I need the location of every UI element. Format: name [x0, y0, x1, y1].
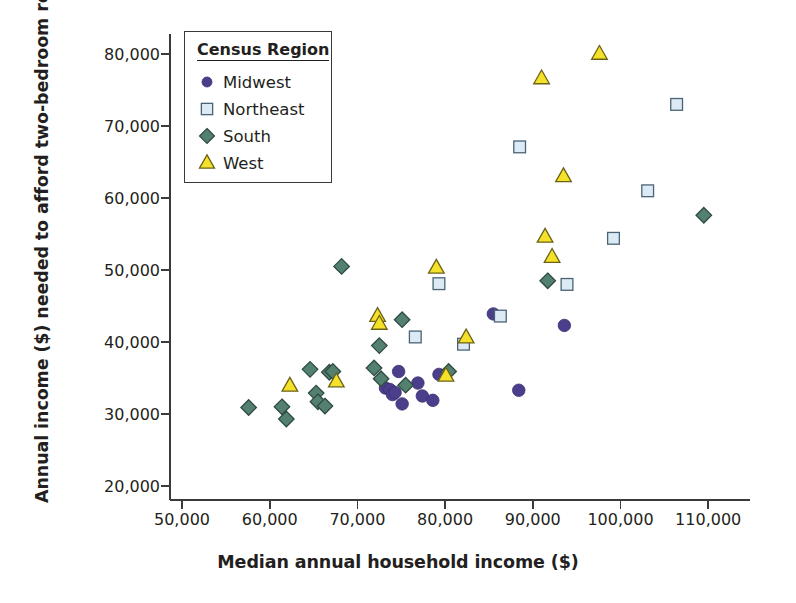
legend-item-midwest[interactable]: Midwest [197, 70, 291, 94]
data-point [282, 377, 298, 391]
data-point [392, 365, 405, 378]
data-point [540, 273, 556, 289]
data-point [302, 362, 318, 378]
data-point [671, 99, 683, 111]
data-point [427, 394, 440, 407]
data-point [561, 279, 573, 291]
data-point [394, 312, 410, 328]
legend-box: Census Region MidwestNortheastSouthWest [184, 31, 332, 183]
data-point [608, 232, 620, 244]
legend-item-label: West [223, 154, 264, 173]
data-point [592, 46, 608, 60]
data-point [544, 249, 560, 263]
data-point [433, 278, 445, 290]
triangle-marker-icon [197, 153, 217, 173]
data-point [514, 141, 526, 153]
data-point [372, 338, 388, 354]
square-marker-icon [197, 99, 217, 119]
data-point [534, 70, 550, 84]
legend-item-south[interactable]: South [197, 124, 271, 148]
legend-item-label: Northeast [223, 100, 304, 119]
series-midwest [379, 308, 570, 411]
data-point [241, 400, 257, 416]
data-point [558, 319, 571, 332]
series-northeast [409, 99, 682, 351]
scatter-chart-figure: 50,00060,00070,00080,00090,000100,000110… [0, 0, 796, 603]
diamond-marker-icon [197, 126, 217, 146]
data-point [389, 386, 402, 399]
legend-item-northeast[interactable]: Northeast [197, 97, 304, 121]
data-point [696, 208, 712, 224]
legend-item-label: South [223, 127, 271, 146]
data-point [556, 168, 572, 182]
data-point [458, 329, 474, 343]
data-point [642, 185, 654, 197]
plot-area [0, 0, 796, 603]
legend-item-label: Midwest [223, 73, 291, 92]
series-south [241, 208, 712, 427]
data-point [334, 259, 350, 275]
data-point [412, 377, 425, 390]
data-point [396, 398, 409, 411]
data-point [429, 259, 445, 273]
circle-marker-icon [197, 72, 217, 92]
data-point [494, 310, 506, 322]
legend-title: Census Region [197, 40, 329, 61]
data-point [409, 331, 421, 343]
data-point [513, 384, 526, 397]
data-point [537, 228, 553, 242]
legend-item-west[interactable]: West [197, 151, 264, 175]
